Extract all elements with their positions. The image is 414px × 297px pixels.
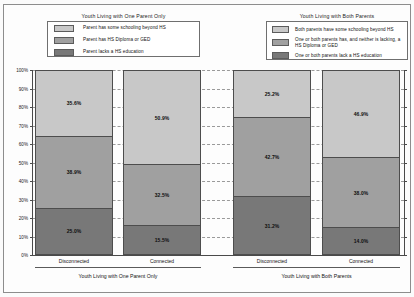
legend-item-label: Parent has some schooling beyond HS xyxy=(83,25,166,30)
x-category-label: Connected xyxy=(321,258,401,264)
legend-left: Parent has some schooling beyond HS Pare… xyxy=(47,21,200,57)
legend-swatch-dark xyxy=(54,49,74,56)
bar-segment[interactable]: 42.7% xyxy=(234,118,310,197)
y-tick-label: 40% xyxy=(19,179,28,184)
legend-item-label: One or both parents lack a HS education xyxy=(295,53,382,58)
y-axis-right xyxy=(404,70,405,255)
y-tick-label: 80% xyxy=(19,105,28,110)
legend-item-label: Both parents have some schooling beyond … xyxy=(295,27,394,32)
bar-segment-value-label: 50.9% xyxy=(155,115,170,121)
legend-right-title: Youth Living with Both Parents xyxy=(266,13,408,19)
bar-segment-value-label: 25.0% xyxy=(67,228,82,234)
bar-segment-value-label: 32.5% xyxy=(155,192,170,198)
legend-item: One or both parents has, and neither is … xyxy=(267,36,407,49)
stacked-bar[interactable]: 35.6%38.9%25.0% xyxy=(35,70,113,255)
y-tick-label: 60% xyxy=(19,142,28,147)
y-tick-label: 90% xyxy=(19,86,28,91)
bar-segment-value-label: 46.9% xyxy=(354,111,369,117)
legend-swatch-dark xyxy=(272,52,289,59)
bar-segment[interactable]: 46.9% xyxy=(323,71,399,158)
legend-item-label: Parent has HS Diploma or GED xyxy=(83,37,150,42)
bar-segment[interactable]: 25.0% xyxy=(36,209,112,254)
bar-segment-value-label: 42.7% xyxy=(265,154,280,160)
y-tick-label: 20% xyxy=(19,216,28,221)
x-category-label: Connected xyxy=(122,258,202,264)
legend-swatch-medium xyxy=(272,39,289,46)
bar-segment[interactable]: 35.6% xyxy=(36,71,112,137)
bar-segment-value-label: 14.0% xyxy=(354,238,369,244)
bar-segment-value-label: 31.2% xyxy=(265,223,280,229)
y-tick-label: 50% xyxy=(19,160,28,165)
y-tick-label: 100% xyxy=(16,68,28,73)
stacked-bar[interactable]: 46.9%38.0%14.0% xyxy=(322,70,400,255)
stacked-bar[interactable]: 50.9%32.5%15.5% xyxy=(123,70,201,255)
bar-segment[interactable]: 14.0% xyxy=(323,228,399,254)
legend-item: Both parents have some schooling beyond … xyxy=(267,22,407,36)
stacked-bar[interactable]: 25.2%42.7%31.2% xyxy=(233,70,311,255)
legend-item: Parent has some schooling beyond HS xyxy=(48,22,199,34)
group-axis-title: Youth Living with Both Parents xyxy=(233,273,400,279)
legend-item: One or both parents lack a HS education xyxy=(267,49,407,62)
y-tick-label: 30% xyxy=(19,197,28,202)
bar-segment[interactable]: 15.5% xyxy=(124,226,200,254)
legend-item-label: One or both parents has, and neither is … xyxy=(295,37,405,47)
legend-left-title: Youth Living with One Parent Only xyxy=(47,13,200,19)
bar-segment[interactable]: 31.2% xyxy=(234,197,310,254)
bar-segment[interactable]: 32.5% xyxy=(124,165,200,225)
y-tick-label: 0% xyxy=(21,253,28,258)
legend-item: Parent lacks a HS education xyxy=(48,46,199,58)
legend-swatch-medium xyxy=(54,37,74,44)
legend-swatch-light xyxy=(272,26,289,33)
bar-segment-value-label: 25.2% xyxy=(265,91,280,97)
legend-swatch-light xyxy=(54,25,74,32)
bar-segment[interactable]: 50.9% xyxy=(124,71,200,165)
y-tick-label: 70% xyxy=(19,123,28,128)
group-axis-title: Youth Living with One Parent Only xyxy=(35,273,201,279)
legend-item-label: Parent lacks a HS education xyxy=(83,49,144,54)
legend-right: Both parents have some schooling beyond … xyxy=(266,21,408,60)
legend-item: Parent has HS Diploma or GED xyxy=(48,34,199,46)
bar-segment[interactable]: 38.9% xyxy=(36,137,112,209)
bar-segment[interactable]: 38.0% xyxy=(323,158,399,229)
y-axis-left xyxy=(32,70,33,255)
plot-area: 100%90%80%70%60%50%40%30%20%10%0% 35.6%3… xyxy=(33,70,404,255)
bar-segment-value-label: 38.0% xyxy=(354,190,369,196)
figure-root: Youth Living with One Parent Only Parent… xyxy=(0,0,414,297)
x-axis xyxy=(32,255,405,256)
group-rule xyxy=(233,267,400,268)
group-rule xyxy=(35,267,201,268)
bar-segment[interactable]: 25.2% xyxy=(234,71,310,118)
y-tick-label: 10% xyxy=(19,234,28,239)
bar-segment-value-label: 38.9% xyxy=(67,169,82,175)
bar-segment-value-label: 15.5% xyxy=(155,237,170,243)
x-category-label: Disconnected xyxy=(34,258,114,264)
x-category-label: Disconnected xyxy=(232,258,312,264)
bar-segment-value-label: 35.6% xyxy=(67,100,82,106)
